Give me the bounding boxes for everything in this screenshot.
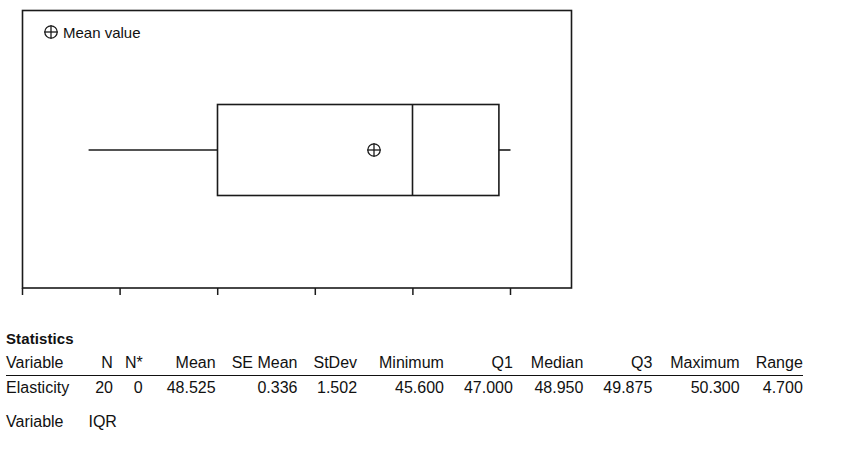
statistics-table: Variable N N* Mean SE Mean StDev Minimum… [6, 353, 803, 399]
x-tick-label-46: 46 [111, 298, 130, 300]
boxplot-panel: Mean value 45 46 47 48 49 50 [0, 0, 868, 300]
cell-median: 48.950 [513, 376, 583, 400]
cell-n: 20 [83, 376, 113, 400]
col-header-q1: Q1 [444, 353, 513, 376]
cell-stdev: 1.502 [297, 376, 357, 400]
col-header-stdev: StDev [297, 353, 357, 376]
table-row: Elasticity 20 0 48.525 0.336 1.502 45.60… [6, 376, 803, 400]
cell-maximum: 50.300 [652, 376, 739, 400]
x-tick-label-45: 45 [13, 298, 32, 300]
cell-mean: 48.525 [143, 376, 216, 400]
col-header-iqr: IQR [88, 413, 116, 431]
x-tick-label-48: 48 [306, 298, 325, 300]
cell-range: 4.700 [740, 376, 803, 400]
col-header-minimum: Minimum [357, 353, 444, 376]
col-header-mean: Mean [143, 353, 216, 376]
cell-minimum: 45.600 [357, 376, 444, 400]
col-header-median: Median [513, 353, 583, 376]
col-header-q3: Q3 [583, 353, 652, 376]
iqr-box [218, 105, 499, 196]
x-tick-label-47: 47 [208, 298, 227, 300]
x-tick-label-49: 49 [403, 298, 422, 300]
boxplot-figure: Mean value 45 46 47 48 49 50 [0, 0, 868, 300]
statistics-section: Statistics Variable N N* Mean SE Mean St… [0, 330, 868, 431]
col-header-n: N [83, 353, 113, 376]
mean-marker-icon [367, 143, 380, 156]
cell-se-mean: 0.336 [216, 376, 298, 400]
col-header-variable-2: Variable [6, 413, 84, 431]
col-header-variable: Variable [6, 353, 83, 376]
statistics-second-block: Variable IQR [6, 413, 868, 431]
col-header-n-star: N* [113, 353, 143, 376]
table-header-row: Variable N N* Mean SE Mean StDev Minimum… [6, 353, 803, 376]
cell-n-star: 0 [113, 376, 143, 400]
cell-q1: 47.000 [444, 376, 513, 400]
col-header-maximum: Maximum [652, 353, 739, 376]
x-tick-label-50: 50 [501, 298, 520, 300]
legend-label-mean-value: Mean value [63, 24, 141, 41]
cell-variable: Elasticity [6, 376, 83, 400]
circled-plus-icon [44, 25, 57, 38]
col-header-range: Range [740, 353, 803, 376]
cell-q3: 49.875 [583, 376, 652, 400]
x-axis-ticks [23, 288, 511, 295]
col-header-se-mean: SE Mean [216, 353, 298, 376]
statistics-heading: Statistics [6, 330, 868, 347]
